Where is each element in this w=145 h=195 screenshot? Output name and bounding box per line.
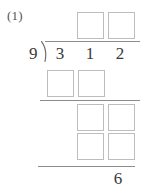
bringdown-ones-box[interactable] [108,104,135,131]
division-bracket-icon [41,41,48,62]
problem-number-label: (1) [7,9,23,23]
quotient-box-1[interactable] [77,12,104,39]
partial-product-1-ones-box[interactable] [78,70,105,97]
remainder-digit: 6 [110,169,126,188]
partial-product-2-tens-box[interactable] [77,133,104,160]
partial-product-1-tens-box[interactable] [47,70,74,97]
subtraction-rule-1 [40,100,140,101]
dividend-digit-tens: 1 [82,44,98,63]
bringdown-tens-box[interactable] [77,104,104,131]
dividend-digit-hundreds: 3 [52,44,68,63]
division-vinculum-rule [45,41,140,42]
partial-product-2-ones-box[interactable] [108,133,135,160]
dividend-digit-ones: 2 [112,44,128,63]
divisor-digit: 9 [29,44,38,63]
quotient-box-2[interactable] [108,12,135,39]
long-division-worksheet: (1) 9 3 1 2 6 [0,0,145,195]
subtraction-rule-2 [38,166,135,167]
